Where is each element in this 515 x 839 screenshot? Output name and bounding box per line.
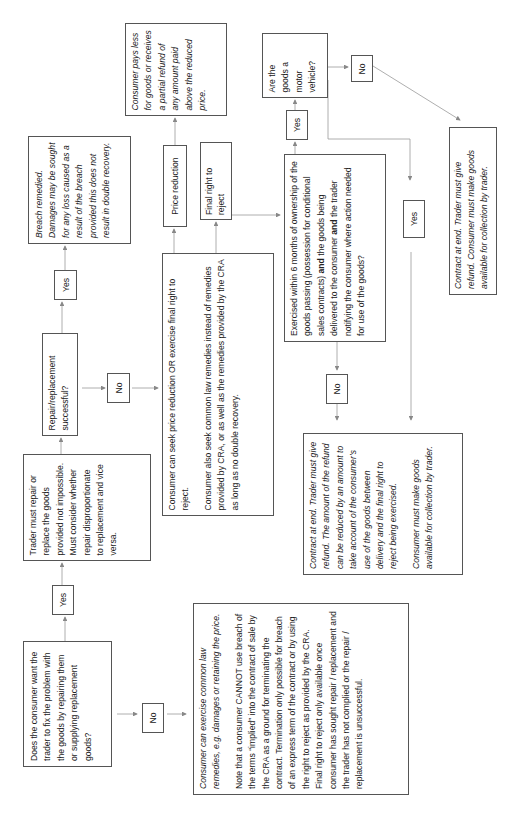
six-months-text-and-1: and bbox=[316, 258, 326, 273]
final-right-to-reject-text: Final right to reject bbox=[204, 168, 226, 215]
contract-end-full-refund-text: Contract at end. Trader must give refund… bbox=[453, 150, 489, 289]
motor-yes-text: Yes bbox=[409, 200, 419, 238]
flowchart-canvas: Does the consumer want the trader to fix… bbox=[0, 0, 515, 839]
repair-yes-text: Yes bbox=[61, 270, 71, 300]
six-months-question-box: Exercised within 6 months of ownership o… bbox=[284, 154, 386, 342]
repair-no-text: No bbox=[114, 373, 124, 403]
breach-remedied-box: Breach remedied. Damages may be sought f… bbox=[28, 136, 131, 244]
final-right-to-reject-box: Final right to reject bbox=[200, 142, 232, 220]
breach-remedied-text: Breach remedied. Damages may be sought f… bbox=[33, 142, 110, 238]
seek-remedies-text-1: Consumer can seek price reduction OR exe… bbox=[166, 259, 193, 510]
contract-end-reduced-refund-text-2: Consumer must make goods available for c… bbox=[410, 439, 437, 569]
start-question-box: Does the consumer want the trader to fix… bbox=[23, 641, 112, 767]
start-no-text: No bbox=[148, 703, 158, 733]
repair-successful-question-box: Repair/replacement successful? bbox=[42, 333, 78, 436]
price-reduction-box: Price reduction bbox=[163, 145, 187, 227]
consumer-pays-less-box: Consumer pays less for goods or receives… bbox=[125, 23, 227, 116]
six-months-no-text: No bbox=[332, 374, 342, 404]
six-months-text-and-2: and bbox=[329, 219, 339, 234]
trader-must-repair-text: Trader must repair or replace the goods … bbox=[28, 462, 118, 555]
start-yes-text: Yes bbox=[58, 585, 68, 615]
repair-yes-label: Yes bbox=[54, 270, 77, 300]
consumer-pays-less-text: Consumer pays less for goods or receives… bbox=[130, 30, 207, 110]
six-months-yes-label: Yes bbox=[286, 110, 308, 140]
price-reduction-text: Price reduction bbox=[170, 145, 180, 227]
motor-yes-label: Yes bbox=[403, 200, 425, 238]
repair-successful-question-text: Repair/replacement successful? bbox=[47, 355, 70, 430]
motor-vehicle-question-box: Are the goods a motor vehicle? bbox=[262, 33, 328, 98]
six-months-yes-text: Yes bbox=[292, 110, 302, 140]
contract-end-full-refund-box: Contract at end. Trader must give refund… bbox=[449, 127, 497, 295]
repair-no-label: No bbox=[107, 373, 130, 403]
six-months-no-label: No bbox=[326, 374, 348, 404]
start-question-text: Does the consumer want the trader to fix… bbox=[28, 652, 92, 761]
motor-vehicle-question-text: Are the goods a motor vehicle? bbox=[267, 60, 317, 92]
seek-remedies-box: Consumer can seek price reduction OR exe… bbox=[162, 253, 274, 516]
common-law-text-1: Consumer can exercise common law remedie… bbox=[197, 609, 224, 789]
common-law-text-2: Note that a consumer CANNOT use breach o… bbox=[233, 609, 367, 789]
contract-end-reduced-refund-box: Contract at end. Trader must give refund… bbox=[303, 433, 463, 575]
motor-no-text: No bbox=[357, 55, 367, 82]
contract-end-reduced-refund-text-1: Contract at end. Trader must give refund… bbox=[307, 439, 401, 569]
trader-must-repair-box: Trader must repair or replace the goods … bbox=[23, 454, 151, 561]
common-law-remedies-box: Consumer can exercise common law remedie… bbox=[193, 603, 409, 795]
start-yes-label: Yes bbox=[52, 585, 74, 615]
seek-remedies-text-2: Consumer also seek common law remedies i… bbox=[202, 259, 242, 510]
start-no-label: No bbox=[142, 703, 164, 733]
motor-no-label: No bbox=[351, 55, 373, 82]
